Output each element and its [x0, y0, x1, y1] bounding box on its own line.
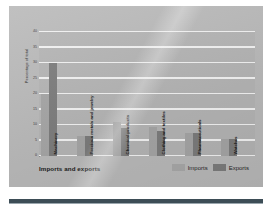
y-tick-label: 35 — [33, 46, 37, 50]
bar-imports — [41, 94, 49, 156]
category-label: Chemical products — [125, 114, 129, 154]
bar-series-container: MachineryPrecious metals and jewelryChem… — [39, 32, 255, 156]
bar-group: Clothing and textiles — [149, 32, 185, 156]
chart-caption: Imports and exports — [39, 166, 100, 172]
legend-swatch-imports — [172, 164, 185, 171]
legend-swatch-exports — [213, 164, 226, 171]
bar-imports — [113, 122, 121, 156]
bar-imports — [221, 139, 229, 156]
y-tick-label: 40 — [33, 30, 37, 34]
category-label: Machinery — [53, 132, 57, 154]
category-label: Watches — [233, 136, 237, 154]
y-tick-label: 25 — [33, 77, 37, 81]
legend-label-imports: Imports — [188, 165, 208, 171]
legend-label-exports: Exports — [229, 165, 249, 171]
y-tick-label: 15 — [33, 108, 37, 112]
legend-item-exports: Exports — [213, 164, 249, 171]
y-axis-ticks: 0510152025303540 — [25, 32, 37, 157]
y-tick-label: 30 — [33, 61, 37, 65]
bar-imports — [149, 127, 157, 156]
bar-group: Chemical products — [113, 32, 149, 156]
bottom-divider-shadow — [9, 203, 263, 204]
bar-group: Precious metals and jewelry — [77, 32, 113, 156]
chart-legend: Imports Exports — [172, 164, 249, 171]
bar-imports — [185, 133, 193, 156]
category-label: Precious metals and jewelry — [89, 95, 93, 154]
y-tick-label: 5 — [35, 139, 37, 143]
bar-group: Pharmaceuticals — [185, 32, 221, 156]
chart-panel: Percentage of total 0510152025303540 Mac… — [9, 6, 263, 187]
chart-figure: Percentage of total 0510152025303540 Mac… — [0, 0, 272, 215]
bar-group: Watches — [221, 32, 257, 156]
y-tick-label: 20 — [33, 92, 37, 96]
y-tick-label: 0 — [35, 154, 37, 158]
category-label: Clothing and textiles — [161, 111, 165, 154]
category-label: Pharmaceuticals — [197, 119, 201, 154]
bar-group: Machinery — [41, 32, 77, 156]
bar-imports — [77, 136, 85, 156]
legend-item-imports: Imports — [172, 164, 208, 171]
y-tick-label: 10 — [33, 123, 37, 127]
